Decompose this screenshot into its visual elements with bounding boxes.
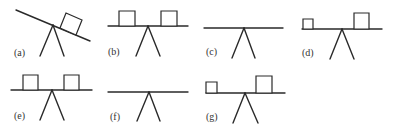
weight-box [206,82,217,93]
fulcrum-leg [244,28,255,58]
seesaw-panel-a: (a) [14,10,90,59]
fulcrum-leg [232,28,244,58]
seesaw-panel-d: (d) [302,13,382,59]
fulcrum-leg [245,93,258,123]
seesaw-panel-f: (f) [108,92,188,123]
seesaw-panel-g: (g) [206,76,285,123]
panels-root: (a)(b)(c)(d)(e)(f)(g) [11,10,382,123]
panel-label: (c) [206,46,217,58]
panel-label: (a) [14,47,25,59]
fulcrum-leg [137,92,149,121]
fulcrum-leg [148,26,160,56]
weight-box [256,76,272,93]
weight-box [303,19,313,29]
fulcrum-leg [342,29,354,59]
panel-label: (d) [302,47,314,59]
panel-label: (b) [108,46,120,58]
fulcrum-leg [52,90,64,120]
seesaw-panel-e: (e) [11,75,92,122]
panel-label: (f) [110,111,120,123]
seesaw-panel-b: (b) [108,11,188,58]
weight-box [23,75,38,90]
seesaw-panel-c: (c) [204,28,283,58]
fulcrum-leg [40,25,53,56]
weight-box [60,13,82,35]
weight-box [354,13,369,29]
fulcrum-leg [136,26,148,56]
weight-box [161,11,177,26]
weight-box [64,75,79,90]
weight-box [119,11,135,26]
fulcrum-leg [40,90,52,120]
fulcrum-leg [330,29,342,59]
fulcrum-leg [149,92,160,121]
panel-label: (e) [14,110,25,122]
panel-label: (g) [206,111,218,123]
fulcrum-leg [233,93,245,123]
seesaw-diagram: (a)(b)(c)(d)(e)(f)(g) [0,0,396,131]
